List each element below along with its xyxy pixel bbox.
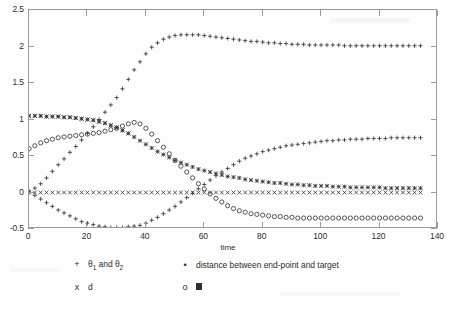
series-block-series — [29, 120, 423, 220]
x-tick-mark-top — [203, 10, 204, 16]
legend-row: x d o — [66, 276, 426, 298]
x-tick-label: 0 — [26, 231, 31, 241]
legend-entry-block: o — [174, 282, 414, 292]
legend-row: + θ1 and θ2 • distance between end-point… — [66, 254, 426, 276]
series-distance-between-end-point-and-target — [29, 114, 422, 190]
y-tick-mark — [28, 82, 34, 83]
y-tick-label: 0.5 — [12, 150, 24, 160]
x-tick-mark — [28, 222, 29, 228]
x-tick-mark — [86, 222, 87, 228]
y-tick-mark — [28, 228, 34, 229]
x-tick-label: 60 — [199, 231, 208, 241]
block-glyph-icon — [196, 283, 202, 290]
circle-marker-icon: o — [174, 283, 196, 292]
plot-area — [28, 9, 437, 228]
y-tick-mark-right — [431, 228, 437, 229]
x-tick-mark — [203, 222, 204, 228]
y-tick-label: 2.5 — [12, 4, 24, 14]
y-tick-mark — [28, 46, 34, 47]
legend-label-distance: distance between end-point and target — [196, 260, 339, 270]
series-d-upper-x-overlay — [29, 114, 130, 135]
scan-artifact — [10, 268, 60, 272]
data-markers — [29, 10, 437, 228]
x-tick-mark — [262, 222, 263, 228]
y-tick-label: 2 — [19, 41, 24, 51]
series-theta_1 — [29, 33, 423, 193]
x-tick-mark-top — [28, 10, 29, 16]
y-tick-mark-right — [431, 119, 437, 120]
x-tick-label: 100 — [313, 231, 327, 241]
star-marker-icon: • — [174, 261, 196, 270]
series-theta_2 — [29, 136, 423, 228]
y-tick-label: -0.5 — [10, 223, 24, 233]
x-tick-label: 40 — [140, 231, 149, 241]
x-tick-mark — [437, 222, 438, 228]
x-tick-mark — [379, 222, 380, 228]
x-tick-mark-top — [145, 10, 146, 16]
x-tick-mark — [145, 222, 146, 228]
chart-legend: + θ1 and θ2 • distance between end-point… — [66, 254, 426, 298]
x-tick-mark-top — [379, 10, 380, 16]
series-d — [29, 191, 422, 195]
legend-label-block — [196, 282, 202, 292]
x-marker-icon: x — [66, 283, 88, 292]
y-tick-mark-right — [431, 82, 437, 83]
legend-entry-d: x d — [66, 282, 174, 292]
y-tick-label: 1 — [19, 114, 24, 124]
chart-figure: -0.500.511.522.5020406080100120140 time … — [0, 0, 456, 310]
x-axis-title: time — [0, 243, 456, 252]
x-tick-mark — [320, 222, 321, 228]
x-tick-mark-top — [262, 10, 263, 16]
y-tick-mark-right — [431, 46, 437, 47]
x-tick-label: 80 — [257, 231, 266, 241]
y-tick-mark-right — [431, 155, 437, 156]
x-tick-label: 140 — [430, 231, 444, 241]
legend-entry-distance: • distance between end-point and target — [174, 260, 414, 270]
y-tick-label: 1.5 — [12, 77, 24, 87]
x-tick-mark-top — [86, 10, 87, 16]
y-tick-mark — [28, 119, 34, 120]
y-tick-mark-right — [431, 192, 437, 193]
x-tick-label: 120 — [372, 231, 386, 241]
y-tick-mark — [28, 192, 34, 193]
legend-entry-theta: + θ1 and θ2 — [66, 259, 174, 271]
y-tick-label: 0 — [19, 187, 24, 197]
x-tick-mark-top — [437, 10, 438, 16]
legend-label-d: d — [88, 282, 93, 292]
y-tick-mark — [28, 155, 34, 156]
x-tick-label: 20 — [82, 231, 91, 241]
plus-marker-icon: + — [66, 260, 88, 269]
legend-label-theta: θ1 and θ2 — [88, 259, 123, 271]
x-tick-mark-top — [320, 10, 321, 16]
